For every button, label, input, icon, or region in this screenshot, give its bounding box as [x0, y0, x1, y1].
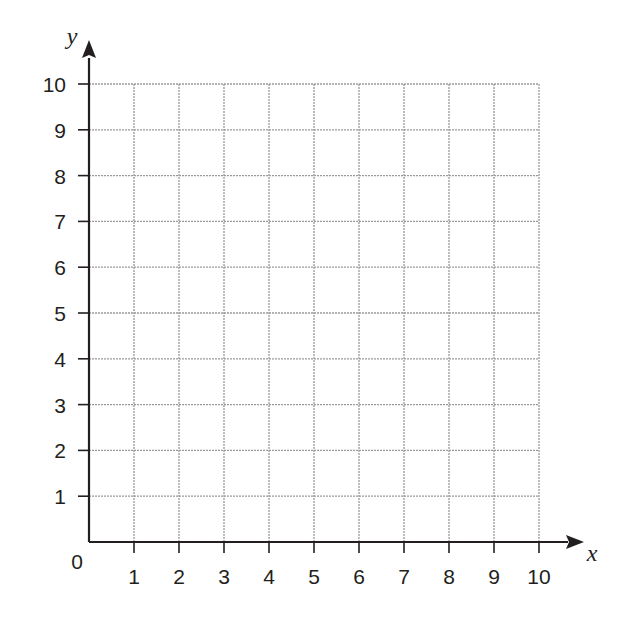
- x-tick-label: 6: [353, 565, 365, 588]
- y-axis-title: y: [65, 23, 78, 49]
- origin-label: 0: [71, 550, 83, 573]
- x-tick-label: 4: [263, 565, 275, 588]
- x-axis-arrow-icon: [566, 535, 584, 549]
- y-tick-label: 8: [54, 165, 66, 188]
- axis-ticks: [78, 84, 539, 553]
- x-tick-label: 10: [527, 565, 550, 588]
- y-tick-label: 1: [54, 485, 66, 508]
- y-tick-label: 10: [43, 73, 66, 96]
- x-tick-label: 7: [398, 565, 410, 588]
- y-tick-label: 4: [54, 348, 66, 371]
- y-axis-arrow-icon: [82, 40, 96, 58]
- coordinate-grid: 12345678910 12345678910 0 x y: [0, 0, 635, 636]
- y-tick-label: 9: [54, 119, 66, 142]
- x-tick-label: 5: [308, 565, 320, 588]
- x-tick-label: 3: [218, 565, 230, 588]
- y-tick-labels: 12345678910: [43, 73, 67, 508]
- x-tick-label: 9: [488, 565, 500, 588]
- y-tick-label: 3: [54, 394, 66, 417]
- grid-lines: [89, 84, 539, 542]
- y-tick-label: 5: [54, 302, 66, 325]
- x-tick-label: 1: [128, 565, 140, 588]
- y-tick-label: 6: [54, 256, 66, 279]
- x-axis-title: x: [586, 540, 598, 566]
- y-tick-label: 2: [54, 439, 66, 462]
- x-tick-labels: 12345678910: [128, 565, 551, 588]
- x-tick-label: 8: [443, 565, 455, 588]
- y-tick-label: 7: [54, 210, 66, 233]
- x-tick-label: 2: [173, 565, 185, 588]
